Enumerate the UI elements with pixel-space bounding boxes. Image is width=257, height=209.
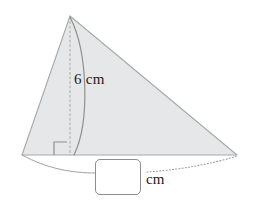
geometry-figure-stage: 6 cm cm (0, 0, 257, 209)
base-length-input[interactable] (95, 159, 141, 195)
base-dimension-line-solid (22, 155, 96, 173)
answer-unit-label: cm (146, 170, 164, 188)
height-dimension-label: 6 cm (74, 70, 105, 89)
triangle-shape (22, 16, 237, 155)
